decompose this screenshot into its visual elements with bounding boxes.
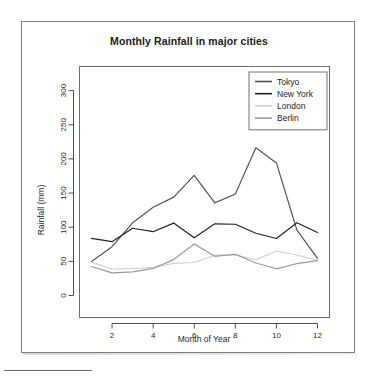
y-tick-label: 150 (59, 186, 68, 200)
series-line-london (92, 251, 318, 269)
x-tick-label: 8 (233, 331, 238, 340)
chart-legend[interactable]: TokyoNew YorkLondonBerlin (249, 72, 327, 130)
bottom-divider (4, 370, 92, 371)
x-axis-label: Month of Year (178, 334, 231, 344)
series-lines (92, 148, 318, 273)
legend-label-berlin[interactable]: Berlin (277, 113, 299, 123)
series-line-new-york (92, 223, 318, 242)
y-tick-label: 200 (59, 152, 68, 166)
chart-card: Monthly Rainfall in major cities 0501001… (21, 21, 355, 353)
legend-label-new-york[interactable]: New York (277, 89, 314, 99)
x-tick-label: 4 (151, 331, 156, 340)
y-axis-label: Rainfall (mm) (36, 185, 46, 236)
x-tick-label: 2 (110, 331, 115, 340)
x-tick-label: 12 (313, 331, 322, 340)
x-tick-label: 10 (272, 331, 281, 340)
legend-label-tokyo[interactable]: Tokyo (277, 77, 299, 87)
y-tick-label: 100 (59, 220, 68, 234)
y-tick-label: 300 (59, 83, 68, 97)
y-tick-label: 0 (59, 293, 68, 298)
rainfall-line-chart: 050100150200250300 24681012 TokyoNew Yor… (22, 22, 356, 354)
y-axis: 050100150200250300 (59, 83, 74, 297)
y-tick-label: 50 (59, 256, 68, 265)
y-tick-label: 250 (59, 118, 68, 132)
screenshot-root: Monthly Rainfall in major cities 0501001… (0, 0, 377, 380)
card-shadow (23, 353, 357, 355)
legend-label-london[interactable]: London (277, 101, 306, 111)
series-line-tokyo (92, 148, 318, 262)
